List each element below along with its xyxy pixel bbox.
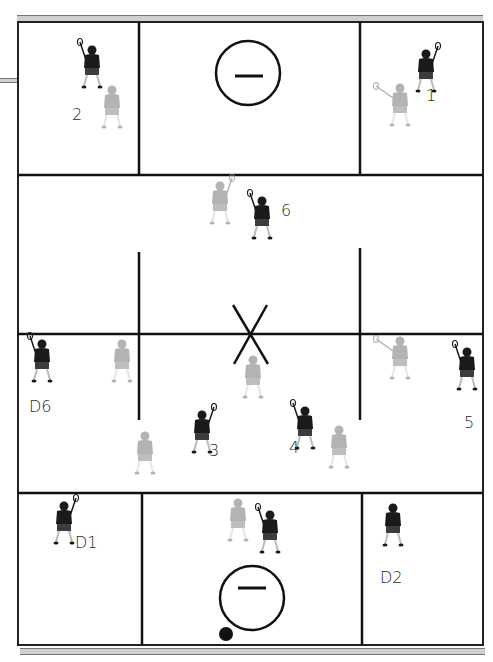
top-goal-crease xyxy=(216,41,280,105)
defense-player-icon xyxy=(243,356,264,399)
position-label-5: 5 xyxy=(464,415,474,431)
defense-player-icon xyxy=(102,86,123,129)
position-label-2: 2 xyxy=(72,107,82,123)
defense-player-icon xyxy=(329,426,350,469)
offense-player-icon xyxy=(78,39,103,89)
position-label-d1: D1 xyxy=(75,535,98,551)
position-label-6: 6 xyxy=(281,203,291,219)
position-label-3: 3 xyxy=(209,443,219,459)
defense-player-icon xyxy=(210,175,235,225)
offense-player-icon xyxy=(28,333,53,383)
ball-icon xyxy=(219,627,233,641)
position-label-d6: D6 xyxy=(29,399,52,415)
offense-player-icon xyxy=(383,504,404,547)
position-label-4: 4 xyxy=(289,440,299,456)
lacrosse-field xyxy=(0,0,493,662)
players-layer xyxy=(28,39,478,554)
offense-player-icon xyxy=(416,43,441,93)
defense-player-icon xyxy=(374,336,411,380)
defense-player-icon xyxy=(112,340,133,383)
position-label-d2: D2 xyxy=(380,570,403,586)
defense-player-icon xyxy=(135,432,156,475)
offense-player-icon xyxy=(256,504,281,554)
offense-player-icon xyxy=(248,190,273,240)
position-label-1: 1 xyxy=(426,88,436,104)
offense-player-icon xyxy=(453,341,478,391)
defense-player-icon xyxy=(374,83,411,127)
bottom-goal-crease xyxy=(220,566,284,630)
defense-player-icon xyxy=(228,499,249,542)
